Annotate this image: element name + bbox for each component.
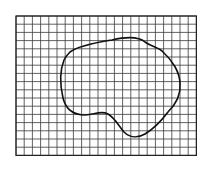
irregular-shape-outline (61, 38, 180, 137)
grid-paper (16, 16, 196, 155)
diagram-canvas: Irregular closed outline drawn on square… (0, 0, 204, 172)
